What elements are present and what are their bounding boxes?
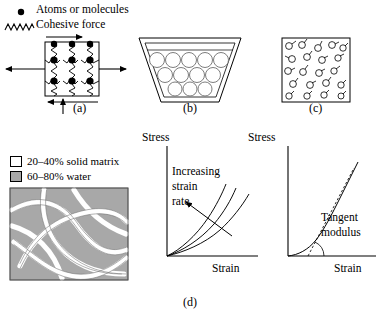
chart-strain-rate-ylabel: Stress (142, 132, 169, 144)
legend-item-water-label: 60–80% water (27, 171, 91, 182)
legend-item-solid-matrix-label: 20–40% solid matrix (27, 156, 119, 167)
swatch-solid-matrix (10, 156, 22, 167)
tangent-angle-arc (315, 242, 324, 256)
chart-tangent-modulus-plot (262, 144, 380, 272)
chart-strain-rate-xlabel: Strain (212, 263, 239, 275)
arrow-increasing-strain-rate (186, 202, 232, 236)
matrix-diagram (10, 188, 132, 283)
chart-strain-rate-annotation-line-2: strain (172, 181, 198, 193)
panel-c-label: (c) (309, 102, 322, 114)
chart-strain-rate-annotation-line-3: rate (172, 196, 189, 208)
chart-strain-rate-plot (150, 144, 260, 272)
panel-d-matrix (10, 188, 132, 283)
legend-item-atoms: Atoms or molecules (14, 4, 204, 19)
panel-a-diagram (0, 30, 130, 115)
curve-stress-strain (288, 162, 358, 256)
chart-tangent-modulus-xlabel: Strain (334, 263, 361, 275)
chart-strain-rate: Stress Increasing strain rate Strain (150, 140, 260, 285)
chart-tangent-modulus-ylabel: Stress (248, 132, 275, 144)
chart-strain-rate-annotation-line-1: Increasing (172, 166, 220, 178)
legend-item-atoms-label: Atoms or molecules (36, 4, 129, 16)
chart-tangent-modulus: Stress Tangent modulus Strain (262, 140, 380, 285)
figure-root: Atoms or molecules Cohesive force (0, 0, 380, 317)
chart-tangent-modulus-annotation-line-2: modulus (321, 227, 361, 239)
panel-c-gas: (c) (262, 30, 372, 115)
panel-a-solid: (a) (0, 30, 130, 115)
panel-b-liquid: (b) (135, 30, 245, 115)
chart-tangent-modulus-annotation-line-1: Tangent (321, 212, 358, 224)
filled-dot-icon (14, 7, 30, 17)
legend-item-cohesive-force-label: Cohesive force (36, 19, 105, 31)
panel-a-label: (a) (73, 102, 86, 114)
swatch-water (10, 171, 22, 182)
panel-b-label: (b) (183, 102, 197, 114)
panel-d-label: (d) (183, 296, 197, 308)
